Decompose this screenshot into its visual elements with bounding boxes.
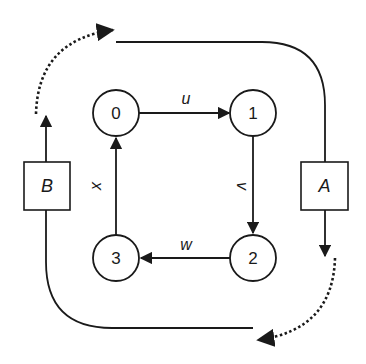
- node-1-label: 1: [248, 104, 257, 123]
- top-loop-line: [116, 42, 325, 162]
- edge-label-w: w: [180, 236, 193, 253]
- cycle-diagram: A B u v w x 0 1 2 3: [0, 0, 366, 364]
- node-2-label: 2: [248, 249, 257, 268]
- node-1: 1: [230, 90, 276, 136]
- node-2: 2: [230, 235, 276, 281]
- edge-label-u: u: [182, 90, 191, 107]
- node-0-label: 0: [111, 104, 120, 123]
- node-3-label: 3: [111, 249, 120, 268]
- node-0: 0: [93, 90, 139, 136]
- bottom-loop-line: [46, 210, 253, 328]
- edge-label-v: v: [234, 182, 251, 191]
- box-b: B: [24, 162, 70, 210]
- box-a: A: [301, 162, 348, 210]
- box-b-label: B: [41, 176, 53, 196]
- node-3: 3: [93, 235, 139, 281]
- edge-label-x: x: [87, 181, 104, 191]
- box-a-label: A: [317, 176, 330, 196]
